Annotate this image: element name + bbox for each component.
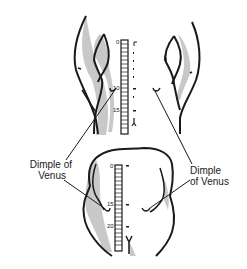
label-right-line1: Dimple — [190, 165, 246, 176]
upper-ruler-label-0: 0 — [116, 39, 120, 45]
upper-ruler: 0 10 15 — [113, 39, 137, 134]
upper-back-view: 0 10 15 — [75, 16, 200, 135]
label-left-line2: Venus — [16, 170, 72, 181]
dimple-of-venus-label-left: Dimple of Venus — [16, 159, 72, 181]
lower-ruler: 0 15 20 — [107, 163, 132, 254]
lower-ruler-label-15: 15 — [107, 201, 114, 207]
upper-ruler-label-10: 10 — [113, 85, 120, 91]
upper-ruler-label-15: 15 — [113, 107, 120, 113]
dimple-of-venus-label-right: Dimple of Venus — [190, 165, 246, 187]
label-right-line2: of Venus — [190, 176, 246, 187]
lower-ruler-label-0: 0 — [110, 163, 114, 169]
lower-back-view: 0 15 20 — [83, 148, 174, 256]
figure-illustration: 0 10 15 — [0, 0, 247, 269]
lower-ruler-label-20: 20 — [107, 223, 114, 229]
label-left-line1: Dimple of — [16, 159, 72, 170]
anatomical-figure: 0 10 15 — [0, 0, 247, 269]
